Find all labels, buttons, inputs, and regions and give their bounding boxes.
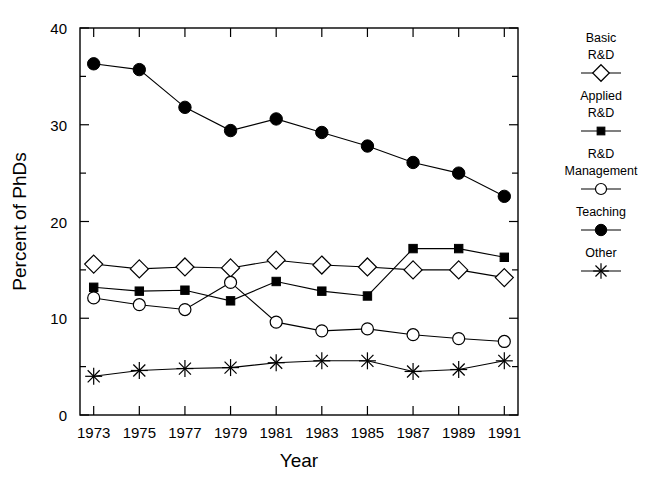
marker-filled-square: [318, 287, 326, 295]
marker-filled-circle: [133, 63, 145, 75]
marker-filled-square: [454, 244, 462, 252]
marker-filled-square: [181, 286, 189, 294]
marker-filled-circle: [270, 113, 282, 125]
y-tick-label: 30: [50, 117, 67, 134]
marker-open-diamond: [593, 65, 610, 82]
legend-label-line2: R&D: [588, 48, 614, 62]
series-line: [94, 361, 505, 376]
marker-open-diamond: [450, 261, 468, 279]
marker-open-diamond: [267, 251, 285, 269]
marker-open-circle: [498, 335, 510, 347]
marker-filled-circle: [224, 124, 236, 136]
legend-entry-basic[interactable]: BasicR&D: [581, 31, 621, 81]
marker-open-diamond: [176, 258, 194, 276]
y-tick-label: 10: [50, 310, 67, 327]
x-tick-label: 1991: [488, 424, 521, 441]
marker-open-circle: [270, 316, 282, 328]
marker-open-circle: [133, 299, 145, 311]
y-tick-label: 20: [50, 214, 67, 231]
marker-open-circle: [225, 276, 237, 288]
marker-open-diamond: [495, 269, 513, 287]
marker-open-diamond: [313, 256, 331, 274]
x-tick-label: 1981: [260, 424, 293, 441]
y-axis-title: Percent of PhDs: [9, 152, 30, 290]
x-tick-label: 1987: [396, 424, 429, 441]
marker-filled-circle: [361, 140, 373, 152]
y-tick-label: 40: [50, 20, 67, 37]
x-tick-label: 1979: [214, 424, 247, 441]
marker-filled-circle: [595, 224, 606, 235]
x-axis-title: Year: [280, 450, 319, 471]
marker-open-circle: [453, 333, 465, 345]
marker-open-diamond: [222, 259, 240, 277]
marker-filled-square: [226, 297, 234, 305]
marker-filled-square: [135, 287, 143, 295]
marker-open-diamond: [85, 255, 103, 273]
legend-label-line1: Basic: [586, 31, 617, 45]
chart-page: 0102030401973197519771979198119831985198…: [0, 0, 664, 485]
line-chart: 0102030401973197519771979198119831985198…: [0, 0, 664, 485]
marker-open-diamond: [404, 261, 422, 279]
legend-label-line1: Other: [585, 246, 616, 260]
marker-filled-circle: [316, 126, 328, 138]
legend-label-line2: R&D: [588, 106, 614, 120]
marker-open-circle: [361, 323, 373, 335]
series-teaching: [87, 58, 510, 203]
legend-label-line1: R&D: [588, 147, 614, 161]
legend-entry-other[interactable]: Other: [581, 246, 621, 279]
marker-filled-circle: [407, 156, 419, 168]
marker-open-diamond: [358, 258, 376, 276]
series-line: [94, 260, 505, 277]
series-line: [94, 64, 505, 197]
x-tick-label: 1985: [351, 424, 384, 441]
marker-open-circle: [407, 329, 419, 341]
x-tick-label: 1977: [168, 424, 201, 441]
marker-filled-square: [500, 253, 508, 261]
marker-open-circle: [179, 304, 191, 316]
marker-filled-circle: [452, 167, 464, 179]
marker-open-circle: [316, 325, 328, 337]
series-r-d-management: [88, 276, 511, 347]
marker-open-circle: [595, 183, 606, 194]
series-line: [94, 249, 505, 301]
marker-filled-circle: [179, 101, 191, 113]
marker-filled-square: [597, 127, 605, 135]
marker-open-circle: [88, 292, 100, 304]
x-tick-label: 1975: [123, 424, 156, 441]
legend-entry-r-d[interactable]: R&DManagement: [565, 147, 638, 195]
plot-frame: [80, 28, 518, 415]
legend-label-line2: Management: [565, 164, 638, 178]
marker-filled-square: [89, 283, 97, 291]
series-other: [85, 352, 513, 384]
y-tick-label: 0: [59, 407, 67, 424]
series-applied-r-d: [89, 244, 508, 305]
x-tick-label: 1989: [442, 424, 475, 441]
legend-label-line1: Applied: [580, 89, 622, 103]
marker-filled-square: [409, 244, 417, 252]
marker-filled-square: [272, 277, 280, 285]
marker-open-diamond: [130, 260, 148, 278]
x-tick-label: 1983: [305, 424, 338, 441]
legend-entry-applied[interactable]: AppliedR&D: [580, 89, 622, 135]
series-basic-r-d: [85, 251, 514, 286]
marker-filled-circle: [87, 58, 99, 70]
marker-filled-circle: [498, 190, 510, 202]
x-tick-label: 1973: [77, 424, 110, 441]
legend-entry-teaching[interactable]: Teaching: [576, 205, 626, 236]
legend-label-line1: Teaching: [576, 205, 626, 219]
marker-filled-square: [363, 292, 371, 300]
